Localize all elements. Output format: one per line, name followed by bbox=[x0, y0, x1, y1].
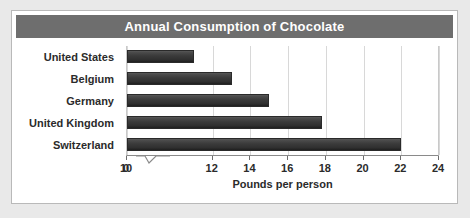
bar bbox=[127, 50, 194, 63]
category-label: Germany bbox=[16, 90, 120, 112]
x-tick-mark bbox=[212, 156, 213, 160]
bar bbox=[127, 94, 269, 107]
bar-row bbox=[127, 46, 438, 68]
axis-break-icon bbox=[136, 155, 170, 164]
chart-title-bar: Annual Consumption of Chocolate bbox=[16, 15, 453, 38]
category-label: Belgium bbox=[16, 68, 120, 90]
bars-layer bbox=[127, 46, 438, 155]
x-tick-label: 24 bbox=[432, 162, 444, 174]
x-tick-label: 20 bbox=[356, 162, 368, 174]
x-tick-label: 10 bbox=[120, 162, 132, 174]
x-axis-title: Pounds per person bbox=[126, 178, 439, 190]
x-tick-label: 18 bbox=[319, 162, 331, 174]
plot-region: United StatesBelgiumGermanyUnited Kingdo… bbox=[16, 42, 453, 200]
bar-row bbox=[127, 68, 438, 90]
bar bbox=[127, 138, 401, 151]
x-tick-label: 12 bbox=[206, 162, 218, 174]
gridline bbox=[439, 46, 440, 155]
x-tick-mark bbox=[249, 156, 250, 160]
bar bbox=[127, 72, 232, 85]
chart-title: Annual Consumption of Chocolate bbox=[125, 19, 345, 34]
category-label: United States bbox=[16, 46, 120, 68]
bar bbox=[127, 116, 322, 129]
category-axis-labels: United StatesBelgiumGermanyUnited Kingdo… bbox=[16, 46, 120, 156]
x-tick-label: 14 bbox=[243, 162, 255, 174]
category-label: Switzerland bbox=[16, 134, 120, 156]
x-tick-mark bbox=[400, 156, 401, 160]
bar-row bbox=[127, 90, 438, 112]
plot-area bbox=[126, 46, 439, 156]
category-label: United Kingdom bbox=[16, 112, 120, 134]
x-tick-label: 16 bbox=[281, 162, 293, 174]
bar-row bbox=[127, 133, 438, 155]
x-tick-mark bbox=[325, 156, 326, 160]
bar-row bbox=[127, 111, 438, 133]
x-tick-mark bbox=[126, 156, 127, 160]
chart-card: Annual Consumption of Chocolate United S… bbox=[11, 10, 458, 204]
x-tick-mark bbox=[287, 156, 288, 160]
x-tick-mark bbox=[438, 156, 439, 160]
x-tick-label: 22 bbox=[394, 162, 406, 174]
x-axis: 01012141618202224 bbox=[126, 156, 439, 178]
x-tick-mark bbox=[363, 156, 364, 160]
